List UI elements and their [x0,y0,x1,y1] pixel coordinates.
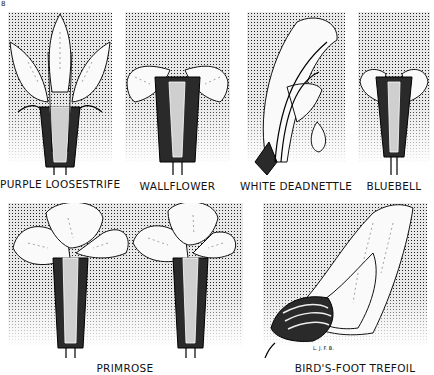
label-purple-loosestrife: PURPLE LOOSESTRIFE [0,178,118,190]
label-primrose: PRIMROSE [80,362,170,374]
panel-primrose [8,203,243,358]
primrose-illustration [8,203,243,358]
artist-signature: L. J. F. B. [313,345,334,351]
bluebell-illustration [358,12,430,175]
panel-purple-loosestrife [8,12,112,175]
panel-wallflower [125,12,230,175]
panel-birds-foot-trefoil: L. J. F. B. [263,203,427,358]
label-birds-foot-trefoil: BIRD'S-FOOT TREFOIL [285,362,425,374]
label-bluebell: BLUEBELL [355,180,433,192]
panel-bluebell [358,12,430,175]
white-deadnettle-illustration [247,12,345,175]
birds-foot-trefoil-illustration [263,203,427,358]
panel-white-deadnettle [247,12,345,175]
label-wallflower: WALLFLOWER [125,180,230,192]
label-white-deadnettle: WHITE DEADNETTLE [238,180,354,192]
purple-loosestrife-illustration [8,12,112,175]
wallflower-illustration [125,12,230,175]
corner-mark: 8 [1,0,5,8]
